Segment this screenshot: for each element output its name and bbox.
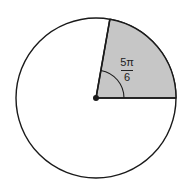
- fraction: 5π 6: [119, 57, 135, 83]
- fraction-numerator: 5π: [119, 57, 135, 69]
- fraction-denominator: 6: [119, 72, 135, 84]
- circle-diagram: [0, 0, 190, 191]
- center-dot: [93, 95, 99, 101]
- circle-sector-figure: 5π 6: [0, 0, 190, 191]
- angle-measure-label: 5π 6: [112, 57, 142, 84]
